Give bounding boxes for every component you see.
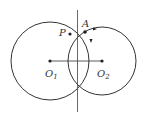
point-o2 [100,59,103,62]
label-o2: O2 [97,68,110,81]
geometry-diagram: P A O1 O2 [0,0,145,122]
point-a [83,30,87,34]
label-o1: O1 [45,68,58,81]
point-p [68,32,71,35]
label-a: A [81,18,89,29]
label-p: P [58,27,66,38]
point-o1 [48,59,51,62]
arrow-left-circle-icon [90,39,93,43]
